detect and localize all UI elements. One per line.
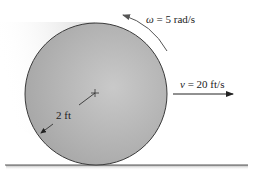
angular-velocity-label: ω = 5 rad/s [146,13,195,25]
v-equals: = [185,78,197,90]
omega-equals: = [154,13,166,25]
rolling-disk-diagram: 2 ft ω = 5 rad/s v = 20 ft/s [0,0,260,180]
v-value: 20 ft/s [197,78,225,90]
radius-label: 2 ft [56,109,71,121]
omega-value: 5 rad/s [166,13,196,25]
disk [25,23,167,165]
ground [5,165,248,170]
linear-velocity-label: v = 20 ft/s [180,78,224,90]
